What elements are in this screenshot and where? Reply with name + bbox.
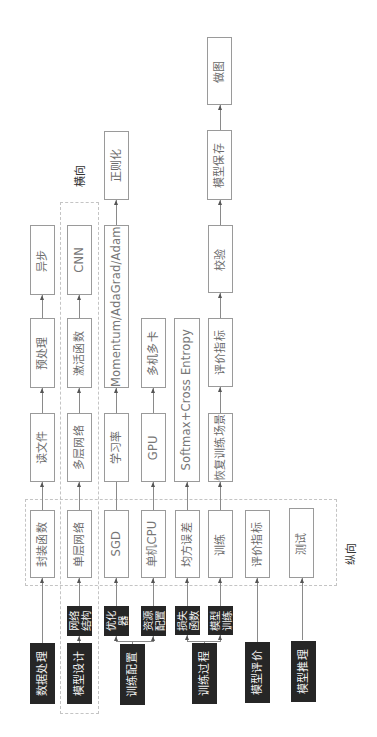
node-model-design: 模型设计 — [67, 643, 92, 704]
step-single-cpu: 单机CPU — [141, 510, 166, 578]
step-plot: 做图 — [207, 37, 232, 105]
step-model-save: 模型保存 — [207, 130, 232, 200]
step-mse: 均方误差 — [175, 510, 200, 578]
step-read-file: 读文件 — [30, 413, 55, 482]
step-preprocess: 预处理 — [30, 318, 55, 388]
node-training-config: 训练配置 — [120, 644, 145, 705]
node-data-processing: 数据处理 — [30, 643, 55, 704]
step-eval-metric: 评价指标 — [245, 510, 270, 578]
step-sgd: SGD — [104, 510, 129, 578]
node-network-structure: 网络结构 — [67, 606, 92, 636]
node-training-process: 训练过程 — [192, 643, 217, 704]
step-resume-training: 恢复训练场景 — [208, 413, 233, 482]
step-async: 异步 — [30, 225, 55, 295]
node-model-training: 模型训练 — [208, 606, 233, 635]
horizontal-direction-label: 横向 — [71, 165, 87, 187]
node-model-evaluation: 模型评价 — [245, 642, 270, 703]
step-train: 训练 — [208, 510, 233, 578]
step-regularization: 正则化 — [104, 131, 129, 200]
step-test: 测试 — [289, 508, 314, 578]
step-single-layer-net: 单层网络 — [67, 510, 92, 578]
step-multi-layer-net: 多层网络 — [67, 413, 92, 482]
node-optimizer: 优化器 — [104, 606, 129, 636]
step-multi-machine-multi-card: 多机多卡 — [141, 318, 166, 388]
node-loss-function: 损失函数 — [175, 606, 200, 635]
step-wrap-function: 封装函数 — [30, 510, 55, 578]
step-momentum-adagrad-adam: Momentum/AdaGrad/Adam — [104, 225, 129, 388]
step-learning-rate: 学习率 — [104, 413, 129, 482]
step-activation: 激活函数 — [67, 318, 92, 388]
node-model-inference: 模型推理 — [291, 641, 316, 702]
step-softmax-cross-entropy: Softmax+Cross Entropy — [174, 318, 200, 482]
step-gpu: GPU — [141, 413, 166, 482]
step-eval-metric-train: 评价指标 — [208, 318, 233, 387]
node-resource-config: 资源配置 — [141, 606, 166, 636]
step-validation: 校验 — [208, 225, 233, 293]
step-cnn: CNN — [67, 225, 92, 295]
vertical-direction-label: 纵向 — [342, 543, 358, 565]
diagram-canvas: 横向 纵向 — [0, 0, 377, 737]
